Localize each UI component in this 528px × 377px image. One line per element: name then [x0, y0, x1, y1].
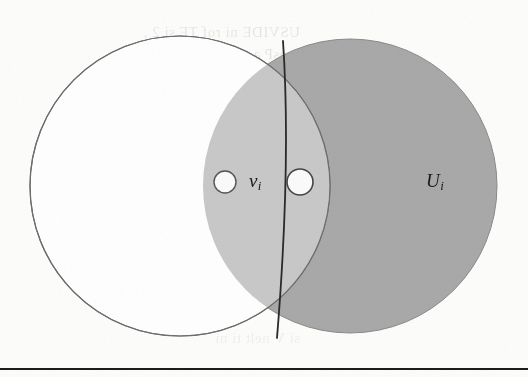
node-circle-right [287, 169, 313, 195]
venn-diagram [0, 0, 528, 377]
scanned-figure-page: USVIDE ni rof TF si 2 , resP a si V moU … [0, 0, 528, 377]
node-circle-left [214, 171, 236, 193]
bottom-horizontal-rule [0, 368, 528, 370]
